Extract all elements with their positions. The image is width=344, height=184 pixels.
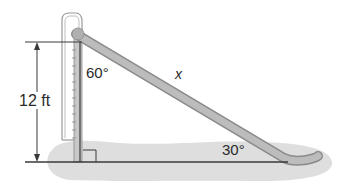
bottom-angle-label: 30° [222,141,245,158]
top-angle-label: 60° [86,64,109,81]
hypotenuse-label: x [175,66,182,82]
arrow-down-icon [34,154,40,162]
arrow-up-icon [34,42,40,50]
height-label: 12 ft [18,92,51,109]
slide-triangle-diagram: 12 ft 60° x 30° [0,0,344,184]
diagram-canvas [0,0,344,184]
slide [72,28,318,161]
